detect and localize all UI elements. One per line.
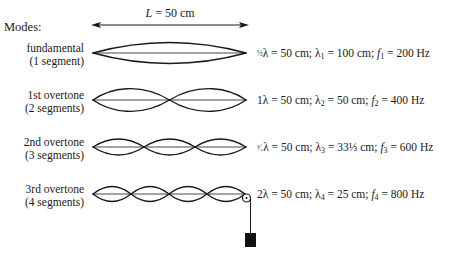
length-arrow-icon bbox=[91, 22, 249, 28]
pulley-icon bbox=[243, 194, 251, 202]
standing-wave-diagram bbox=[0, 0, 464, 259]
wave-2nd-overtone bbox=[93, 139, 246, 155]
wave-3rd-overtone bbox=[93, 187, 245, 202]
wave-1st-overtone bbox=[93, 89, 246, 112]
wave-fundamental bbox=[93, 43, 246, 64]
hanging-mass-icon bbox=[245, 233, 256, 247]
